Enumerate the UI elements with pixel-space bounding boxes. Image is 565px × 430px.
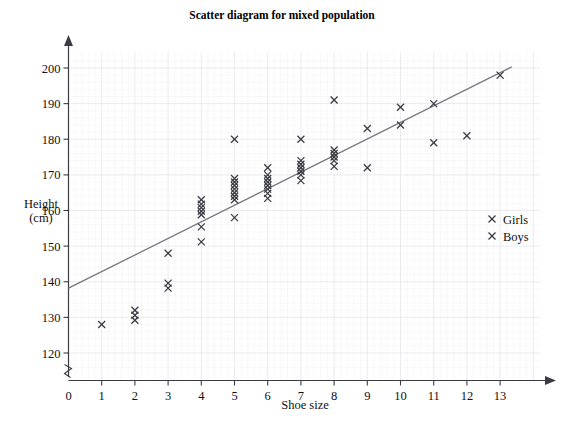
legend-entry: Girls xyxy=(489,213,529,227)
legend-label: Girls xyxy=(503,213,528,227)
y-axis-label-line2: (cm) xyxy=(29,211,53,225)
y-tick-label: 130 xyxy=(42,311,61,325)
y-tick-label: 140 xyxy=(42,275,61,289)
x-tick-label: 0 xyxy=(65,389,71,403)
x-tick-label: 12 xyxy=(461,389,474,403)
y-tick-label: 120 xyxy=(42,347,61,361)
scatter-chart: 1201301401501601701801902000123456789101… xyxy=(0,0,565,430)
chart-title: Scatter diagram for mixed population xyxy=(189,9,375,22)
legend-entry: Boys xyxy=(489,230,529,244)
x-tick-label: 9 xyxy=(364,389,370,403)
y-tick-label: 170 xyxy=(42,168,61,182)
x-tick-label: 6 xyxy=(265,389,271,403)
x-tick-label: 3 xyxy=(165,389,171,403)
y-tick-label: 180 xyxy=(42,133,61,147)
y-tick-label: 200 xyxy=(42,62,61,76)
y-axis-arrow xyxy=(64,35,73,46)
x-tick-label: 1 xyxy=(99,389,105,403)
x-tick-label: 10 xyxy=(394,389,407,403)
x-tick-label: 13 xyxy=(494,389,507,403)
x-tick-label: 8 xyxy=(331,389,337,403)
x-tick-label: 11 xyxy=(428,389,440,403)
gridlines xyxy=(69,52,541,381)
x-axis-label: Shoe size xyxy=(281,398,329,412)
x-tick-label: 4 xyxy=(198,389,205,403)
x-axis-arrow xyxy=(545,376,556,385)
legend: GirlsBoys xyxy=(489,213,529,244)
y-tick-label: 150 xyxy=(42,240,61,254)
y-tick-label: 190 xyxy=(42,97,61,111)
legend-label: Boys xyxy=(503,230,529,244)
axes: 1201301401501601701801902000123456789101… xyxy=(42,35,556,403)
chart-canvas: 1201301401501601701801902000123456789101… xyxy=(0,0,565,430)
x-tick-label: 5 xyxy=(231,389,237,403)
x-tick-label: 2 xyxy=(132,389,138,403)
y-axis-label-line1: Height xyxy=(24,197,59,211)
y-axis-break-symbol xyxy=(65,365,72,378)
